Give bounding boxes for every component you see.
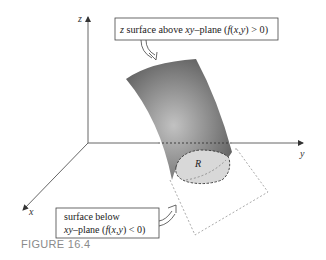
callout-below-line2: xy–plane (f(x,y) < 0) — [63, 224, 145, 236]
callout-above-text: z surface above xy–plane (f(x,y) > 0) — [119, 24, 268, 36]
x-axis-label: x — [28, 206, 34, 217]
region-r — [176, 150, 230, 184]
x-axis — [23, 143, 88, 210]
y-axis-label: y — [299, 148, 305, 159]
region-r-label: R — [194, 158, 201, 169]
callout-above-arrow-icon — [141, 40, 157, 60]
z-axis-label: z — [77, 13, 82, 24]
figure-canvas: z x y R z surface above xy–plane (f(x,y)… — [0, 0, 326, 260]
figure-caption: FIGURE 16.4 — [21, 238, 90, 250]
callout-below-line1: surface below — [64, 211, 121, 222]
callout-below-arrow-icon — [159, 205, 176, 226]
